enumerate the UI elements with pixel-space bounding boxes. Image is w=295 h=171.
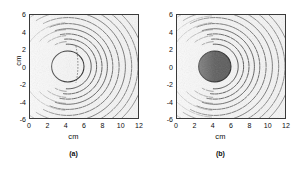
panel-b-plot-area: [176, 14, 286, 119]
panel-b-x-tick-label: 4: [206, 122, 220, 129]
panel-b-x-tick-label: 2: [187, 122, 201, 129]
figure-container: cm 6420-2-4-6 024681012 cm (a) 6420-2-4-…: [0, 0, 295, 171]
panel-a-y-ticks: 6420-2-4-6: [14, 14, 26, 119]
panel-a-y-tick-label: -4: [15, 98, 26, 105]
panel-b-x-tick-label: 6: [224, 122, 238, 129]
panel-a-x-ticks: 024681012: [29, 122, 139, 132]
panel-a-plot-area: [29, 14, 139, 119]
panel-a-plot-svg: [30, 15, 138, 118]
panel-a-x-tick-label: 4: [59, 122, 73, 129]
panel-a-x-tick-label: 10: [114, 122, 128, 129]
panel-b: 6420-2-4-6 024681012 cm (b): [147, 0, 294, 171]
panel-a-x-tick-label: 6: [77, 122, 91, 129]
panel-b-y-ticks: 6420-2-4-6: [161, 14, 173, 119]
panel-b-y-tick-label: 2: [162, 46, 173, 53]
panel-a-x-axis-label: cm: [0, 132, 147, 141]
panel-b-x-tick-label: 12: [279, 122, 293, 129]
panel-a-y-tick-label: 4: [15, 28, 26, 35]
panel-b-x-ticks: 024681012: [176, 122, 286, 132]
panel-a-x-tick-label: 0: [22, 122, 36, 129]
panel-a-x-tick-label: 8: [95, 122, 109, 129]
panel-b-plot-svg: [177, 15, 285, 118]
panel-a-y-tick-label: 6: [15, 11, 26, 18]
panel-b-x-tick-label: 0: [169, 122, 183, 129]
panel-b-y-tick-label: 0: [162, 63, 173, 70]
panel-b-y-tick-label: 6: [162, 11, 173, 18]
panel-a-y-tick-label: 2: [15, 46, 26, 53]
panel-a: cm 6420-2-4-6 024681012 cm (a): [0, 0, 147, 171]
panel-b-scan-noise: [177, 15, 285, 118]
panel-a-x-tick-label: 12: [132, 122, 146, 129]
panel-a-y-tick-label: -2: [15, 81, 26, 88]
panel-b-y-tick-label: -4: [162, 98, 173, 105]
panel-b-x-tick-label: 10: [261, 122, 275, 129]
panel-a-y-tick-label: 0: [15, 63, 26, 70]
panel-a-scan-noise: [30, 15, 138, 118]
panel-a-x-tick-label: 2: [40, 122, 54, 129]
panel-b-x-axis-label: cm: [147, 132, 294, 141]
panel-b-y-tick-label: 4: [162, 28, 173, 35]
panel-a-caption: (a): [0, 150, 147, 157]
panel-b-y-tick-label: -2: [162, 81, 173, 88]
panel-b-x-tick-label: 8: [242, 122, 256, 129]
panel-b-caption: (b): [147, 150, 294, 157]
